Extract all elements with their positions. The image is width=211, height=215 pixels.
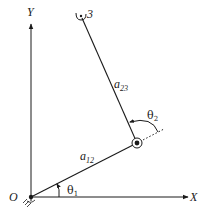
joint-2 bbox=[132, 138, 142, 148]
end-effector-point bbox=[80, 15, 82, 17]
y-axis-label: Y bbox=[27, 5, 35, 19]
a12-extension bbox=[140, 129, 164, 142]
x-axis-label: X bbox=[189, 190, 198, 204]
origin-label: O bbox=[9, 190, 18, 204]
theta2-label: θ2 bbox=[147, 109, 158, 123]
theta1-arc bbox=[57, 184, 59, 197]
link-a12-label: a12 bbox=[80, 149, 94, 165]
link-a23-label: a23 bbox=[114, 77, 128, 93]
theta1-label: θ1 bbox=[67, 184, 78, 198]
end-effector-label: 3 bbox=[86, 7, 93, 21]
manipulator-diagram: Y X O 3 a12 a23 θ1 θ2 bbox=[0, 0, 211, 215]
ground-hatch-icon bbox=[23, 199, 35, 207]
link-a23 bbox=[82, 18, 137, 143]
